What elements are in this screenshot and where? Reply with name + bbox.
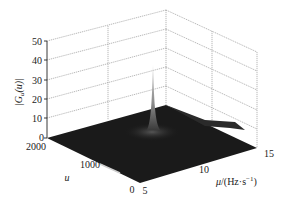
back-left-wall-grid [47,10,166,120]
z-tick-30: 30 [32,75,42,86]
z-tick-40: 40 [32,55,42,66]
z-tick-10: 10 [32,113,42,124]
u-axis-label: u [65,172,70,183]
u-tick-1000: 1000 [80,159,100,170]
z-tick-50: 50 [32,36,42,47]
surface [47,65,257,183]
z-tick-20: 20 [32,94,42,105]
u-tick-2000: 2000 [26,141,46,152]
z-axis-label: |Gu(u)| [13,78,26,106]
surface-plot: 50 40 30 20 10 0 |Gu(u)| 2000 1000 0 u 5… [0,0,281,201]
mu-tick-10: 10 [199,164,209,175]
svg-text:|Gu(u)|: |Gu(u)| [13,78,26,106]
z-axis: 50 40 30 20 10 0 |Gu(u)| [13,36,47,143]
mu-axis-label: μ/(Hz·s−1) [215,175,257,188]
u-tick-0: 0 [130,184,135,195]
mu-tick-15: 15 [264,148,274,159]
mu-tick-5: 5 [143,185,148,196]
